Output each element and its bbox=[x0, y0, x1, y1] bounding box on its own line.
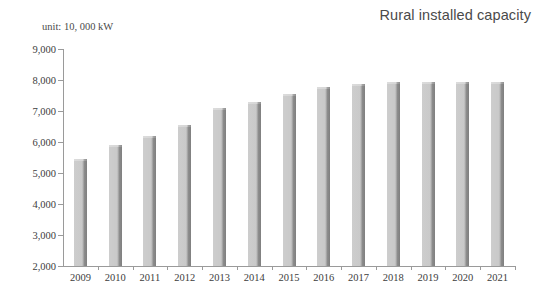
x-axis-tick bbox=[133, 266, 134, 270]
x-axis-line bbox=[63, 266, 516, 267]
x-axis-tick bbox=[341, 266, 342, 270]
x-axis-tick bbox=[411, 266, 412, 270]
x-axis-tick bbox=[515, 266, 516, 270]
bar-top-edge bbox=[178, 125, 191, 127]
bar-top-edge bbox=[352, 84, 365, 86]
bar-top-edge bbox=[422, 82, 435, 84]
bar-chart: Rural installed capacity unit: 10, 000 k… bbox=[0, 0, 545, 292]
bar-top-edge bbox=[283, 94, 296, 96]
y-axis-label: 9,000 bbox=[2, 44, 56, 55]
bar-top-edge bbox=[248, 102, 261, 104]
bar-top-edge bbox=[74, 159, 87, 161]
bar-top-edge bbox=[491, 82, 504, 84]
bar-2014 bbox=[248, 102, 261, 266]
bar-top-edge bbox=[213, 108, 226, 110]
x-axis-tick bbox=[376, 266, 377, 270]
plot-area bbox=[63, 49, 515, 266]
y-axis-label: 6,000 bbox=[2, 137, 56, 148]
bar-top-edge bbox=[387, 82, 400, 84]
bar-2017 bbox=[352, 84, 365, 266]
bar-top-edge bbox=[143, 136, 156, 138]
bar-top-edge bbox=[456, 82, 469, 84]
x-axis-tick bbox=[480, 266, 481, 270]
x-axis-tick bbox=[167, 266, 168, 270]
x-axis-tick bbox=[272, 266, 273, 270]
bar-2011 bbox=[143, 136, 156, 266]
chart-title: Rural installed capacity bbox=[380, 7, 532, 23]
x-axis-label-2021: 2021 bbox=[478, 272, 518, 283]
bar-2010 bbox=[109, 145, 122, 266]
bar-2015 bbox=[283, 94, 296, 266]
unit-caption: unit: 10, 000 kW bbox=[42, 21, 113, 32]
y-axis-tick bbox=[58, 266, 63, 267]
y-axis-label: 3,000 bbox=[2, 230, 56, 241]
x-axis-tick bbox=[202, 266, 203, 270]
bar-top-edge bbox=[109, 145, 122, 147]
bar-2009 bbox=[74, 159, 87, 266]
y-axis-label: 4,000 bbox=[2, 199, 56, 210]
bar-top-edge bbox=[317, 87, 330, 89]
bar-2021 bbox=[491, 82, 504, 266]
x-axis-tick bbox=[445, 266, 446, 270]
bar-2013 bbox=[213, 108, 226, 266]
bar-2020 bbox=[456, 82, 469, 266]
bar-2019 bbox=[422, 82, 435, 266]
y-axis-label: 2,000 bbox=[2, 261, 56, 272]
y-axis-label: 5,000 bbox=[2, 168, 56, 179]
x-axis-tick bbox=[306, 266, 307, 270]
bar-2016 bbox=[317, 87, 330, 266]
x-axis-tick bbox=[237, 266, 238, 270]
x-axis-tick bbox=[98, 266, 99, 270]
y-axis-label: 7,000 bbox=[2, 106, 56, 117]
y-axis-label: 8,000 bbox=[2, 75, 56, 86]
bar-2012 bbox=[178, 125, 191, 266]
bar-2018 bbox=[387, 82, 400, 266]
